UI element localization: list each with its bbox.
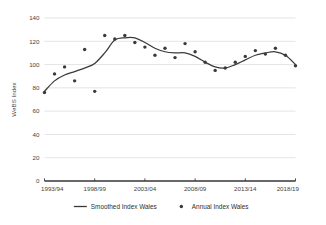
annual-index-point bbox=[73, 79, 76, 82]
annual-index-point bbox=[63, 65, 66, 68]
annual-index-point bbox=[123, 34, 126, 37]
y-axis-tick-label: 140 bbox=[29, 14, 40, 21]
x-axis-tick-label: 2003/04 bbox=[134, 185, 157, 192]
annual-index-points bbox=[43, 34, 297, 94]
annual-index-point bbox=[163, 47, 166, 50]
y-axis-tick-label: 80 bbox=[33, 84, 40, 91]
annual-index-point bbox=[203, 61, 206, 64]
annual-index-point bbox=[193, 50, 196, 53]
legend-label: Annual Index Wales bbox=[192, 203, 249, 210]
y-axis-tick-label: 100 bbox=[29, 61, 40, 68]
annual-index-point bbox=[224, 66, 227, 69]
annual-index-point bbox=[143, 45, 146, 48]
y-axis-title: WeBS Index bbox=[10, 81, 17, 116]
chart-legend: Smoothed Index WalesAnnual Index Wales bbox=[74, 203, 249, 210]
annual-index-point bbox=[93, 90, 96, 93]
legend-label: Smoothed Index Wales bbox=[91, 203, 157, 210]
x-axis-tick-labels: 1993/941998/992003/042008/092013/142018/… bbox=[41, 185, 300, 192]
y-axis-tick-label: 40 bbox=[33, 131, 40, 138]
webs-index-chart: 020406080100120140 WeBS Index 1993/94199… bbox=[0, 0, 326, 225]
gridlines-group bbox=[45, 18, 296, 181]
annual-index-point bbox=[43, 91, 46, 94]
annual-index-point bbox=[103, 34, 106, 37]
annual-index-point bbox=[183, 42, 186, 45]
annual-index-point bbox=[274, 47, 277, 50]
chart-container: 020406080100120140 WeBS Index 1993/94199… bbox=[0, 0, 326, 225]
x-axis-group bbox=[45, 178, 296, 181]
annual-index-point bbox=[113, 37, 116, 40]
annual-index-point bbox=[244, 55, 247, 58]
annual-index-point bbox=[254, 49, 257, 52]
annual-index-point bbox=[53, 72, 56, 75]
annual-index-point bbox=[83, 48, 86, 51]
x-axis-tick-label: 2018/19 bbox=[277, 185, 300, 192]
x-axis-tick-label: 2013/14 bbox=[234, 185, 257, 192]
x-axis-tick-label: 2008/09 bbox=[184, 185, 207, 192]
y-axis-tick-label: 20 bbox=[33, 154, 40, 161]
y-axis-title-group: WeBS Index bbox=[10, 81, 17, 116]
x-axis-tick-label: 1993/94 bbox=[41, 185, 64, 192]
annual-index-point bbox=[133, 41, 136, 44]
y-axis-tick-labels: 020406080100120140 bbox=[29, 14, 40, 184]
annual-index-point bbox=[294, 64, 297, 67]
annual-index-point bbox=[234, 61, 237, 64]
x-axis-tick-label: 1998/99 bbox=[84, 185, 107, 192]
y-axis-tick-label: 120 bbox=[29, 38, 40, 45]
annual-index-point bbox=[173, 56, 176, 59]
annual-index-point bbox=[284, 54, 287, 57]
y-axis-tick-label: 0 bbox=[36, 177, 40, 184]
annual-index-point bbox=[264, 52, 267, 55]
y-axis-tick-label: 60 bbox=[33, 107, 40, 114]
legend-dot-marker bbox=[180, 205, 183, 208]
annual-index-point bbox=[213, 69, 216, 72]
annual-index-point bbox=[153, 54, 156, 57]
